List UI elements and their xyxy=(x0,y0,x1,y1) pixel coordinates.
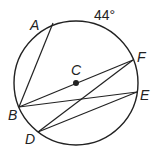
label-c: C xyxy=(71,62,82,78)
label-e: E xyxy=(140,87,150,103)
label-a: A xyxy=(29,17,39,33)
arc-measure-label: 44° xyxy=(94,7,115,23)
label-b: B xyxy=(8,107,17,123)
center-point xyxy=(73,80,79,86)
label-f: F xyxy=(137,49,147,65)
chord-df xyxy=(38,60,133,132)
circle-diagram: A 44° C F E B D xyxy=(0,0,155,151)
label-d: D xyxy=(25,131,35,147)
